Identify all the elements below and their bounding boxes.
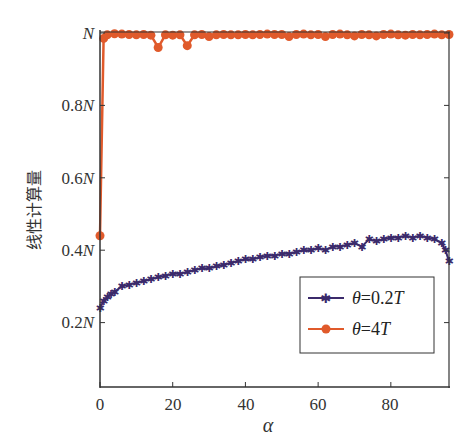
x-tick-label-2: 40 xyxy=(238,395,255,414)
legend: ✱ θ=0.2T θ=4T xyxy=(300,277,434,353)
y-tick-label-2: 0.6N xyxy=(61,169,95,188)
star-marker-icon: ✱ xyxy=(321,291,332,306)
x-tick-label-3: 60 xyxy=(310,395,327,414)
x-tick-label-4: 80 xyxy=(382,395,399,414)
circle-marker-icon xyxy=(154,43,163,52)
legend-entry-theta-0.2T: ✱ θ=0.2T xyxy=(308,288,406,308)
y-tick-label-1: 0.4N xyxy=(61,241,95,260)
y-tick-label-3: 0.8N xyxy=(61,96,95,115)
legend-label-0: θ=0.2T xyxy=(352,288,406,308)
y-axis-label: 线性计算量 xyxy=(25,170,44,250)
circle-marker-icon xyxy=(183,41,192,50)
y-tick-label-0: 0.2N xyxy=(61,313,95,332)
x-tick-label-1: 20 xyxy=(165,395,182,414)
line-chart: ✱✱✱✱✱✱✱✱✱✱✱✱✱✱✱✱✱✱✱✱✱✱✱✱✱✱✱✱✱✱✱✱✱✱✱✱✱✱✱✱… xyxy=(0,0,468,442)
x-tick-label-0: 0 xyxy=(96,395,105,414)
y-tick-label-4: N xyxy=(82,24,96,43)
legend-label-1: θ=4T xyxy=(352,319,392,339)
circle-marker-icon xyxy=(322,325,331,334)
x-axis-label: α xyxy=(263,414,274,436)
